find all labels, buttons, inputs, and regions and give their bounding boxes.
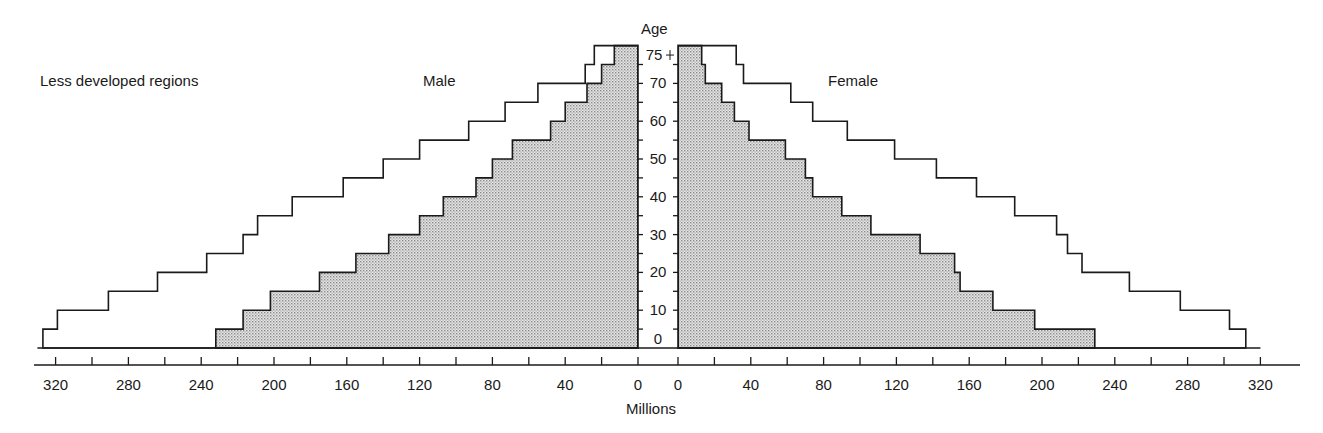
x-tick-label: 200	[1029, 376, 1054, 393]
x-tick-label: 40	[557, 376, 574, 393]
x-tick-label: 0	[634, 376, 642, 393]
age-tick-label: 50	[650, 150, 667, 167]
x-tick-label: 320	[1248, 376, 1273, 393]
age-tick-label: 75	[646, 46, 663, 63]
x-tick-label: 0	[674, 376, 682, 393]
age-tick-label: 0	[654, 330, 662, 347]
age-tick-label: 20	[650, 263, 667, 280]
age-tick-label: 70	[650, 74, 667, 91]
x-tick-label: 120	[407, 376, 432, 393]
male-label: Male	[423, 72, 456, 89]
population-pyramid-chart: 0102030405060707500404080801201201601602…	[0, 0, 1323, 433]
x-tick-label: 320	[43, 376, 68, 393]
x-tick-label: 240	[1102, 376, 1127, 393]
age-axis-title: Age	[641, 20, 668, 37]
x-tick-label: 160	[957, 376, 982, 393]
x-tick-label: 80	[484, 376, 501, 393]
x-tick-label: 240	[189, 376, 214, 393]
right-shaded-area	[678, 46, 1095, 348]
region-title: Less developed regions	[40, 72, 198, 89]
age-tick-label: 10	[650, 301, 667, 318]
female-label: Female	[828, 72, 878, 89]
x-tick-label: 160	[334, 376, 359, 393]
x-tick-label: 280	[116, 376, 141, 393]
age-tick-label: 30	[650, 226, 667, 243]
x-tick-label: 200	[261, 376, 286, 393]
age-tick-label: 60	[650, 112, 667, 129]
left-shaded-area	[216, 46, 638, 348]
x-axis-title: Millions	[626, 400, 676, 417]
x-tick-label: 40	[742, 376, 759, 393]
x-tick-label: 120	[884, 376, 909, 393]
age-tick-label: 40	[650, 188, 667, 205]
x-tick-label: 80	[815, 376, 832, 393]
x-tick-label: 280	[1175, 376, 1200, 393]
